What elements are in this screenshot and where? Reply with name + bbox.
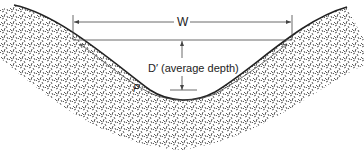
- wetted-perimeter-label: P: [133, 84, 140, 94]
- width-arrowhead-left-icon: [74, 20, 79, 24]
- width-label: W: [177, 16, 188, 28]
- depth-arrowhead-up-icon: [180, 41, 184, 46]
- depth-arrowhead-down-icon: [180, 85, 184, 90]
- average-depth-label: D′ (average depth): [148, 63, 239, 74]
- width-arrowhead-right-icon: [286, 20, 291, 24]
